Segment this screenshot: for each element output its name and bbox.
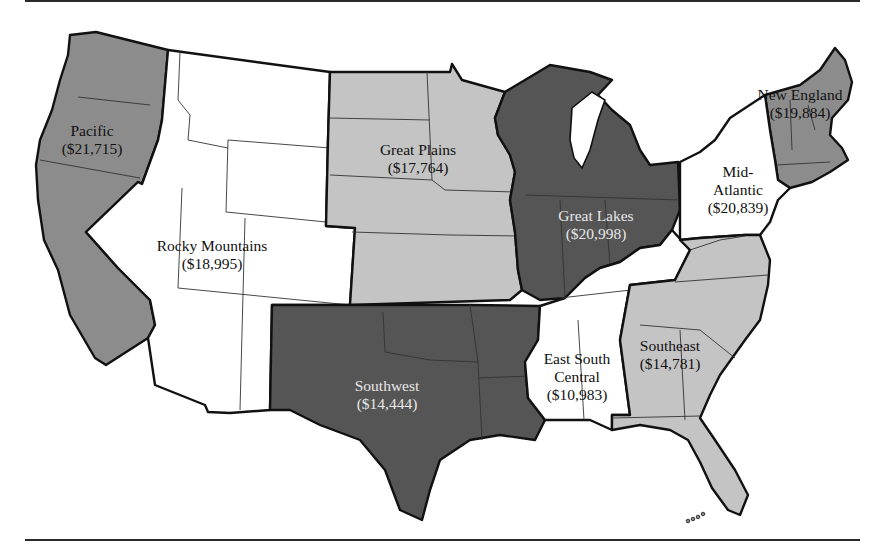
label-rocky-mountains-value: ($18,995)	[157, 255, 268, 273]
label-southwest-value: ($14,444)	[355, 395, 420, 413]
label-southwest: Southwest ($14,444)	[355, 377, 420, 413]
label-east-south-central: East South Central ($10,983)	[544, 350, 611, 404]
label-southeast-value: ($14,781)	[640, 355, 701, 373]
label-mid-atlantic: Mid- Atlantic ($20,839)	[708, 163, 769, 217]
label-rocky-mountains-name: Rocky Mountains	[157, 237, 268, 255]
label-pacific-value: ($21,715)	[62, 140, 123, 158]
label-southeast: Southeast ($14,781)	[640, 337, 701, 373]
label-pacific-name: Pacific	[62, 122, 123, 140]
us-regions-map	[0, 0, 884, 553]
region-great-plains[interactable]	[326, 64, 522, 305]
bottom-rule	[25, 539, 860, 541]
label-great-plains-value: ($17,764)	[380, 159, 456, 177]
label-new-england-name: New England	[758, 86, 843, 104]
label-east-south-central-value: ($10,983)	[544, 386, 611, 404]
label-east-south-central-line1: East South	[544, 350, 611, 368]
label-pacific: Pacific ($21,715)	[62, 122, 123, 158]
label-mid-atlantic-value: ($20,839)	[708, 199, 769, 217]
label-great-lakes-value: ($20,998)	[558, 225, 633, 243]
label-great-plains: Great Plains ($17,764)	[380, 141, 456, 177]
label-southeast-name: Southeast	[640, 337, 701, 355]
label-rocky-mountains: Rocky Mountains ($18,995)	[157, 237, 268, 273]
label-new-england-value: ($19,884)	[758, 104, 843, 122]
label-mid-atlantic-line1: Mid-	[708, 163, 769, 181]
label-mid-atlantic-line2: Atlantic	[708, 181, 769, 199]
label-great-plains-name: Great Plains	[380, 141, 456, 159]
label-southwest-name: Southwest	[355, 377, 420, 395]
label-east-south-central-line2: Central	[544, 368, 611, 386]
label-new-england: New England ($19,884)	[758, 86, 843, 122]
label-great-lakes: Great Lakes ($20,998)	[558, 207, 633, 243]
label-great-lakes-name: Great Lakes	[558, 207, 633, 225]
